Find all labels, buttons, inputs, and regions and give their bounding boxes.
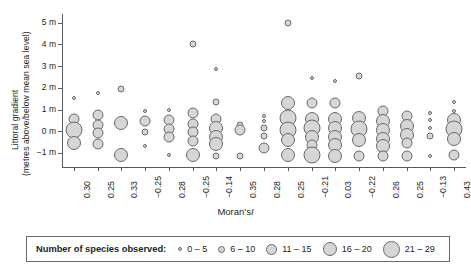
data-bubble — [303, 147, 320, 164]
y-axis-tick-label: 2 m — [22, 83, 56, 92]
size-legend-item: 21 – 29 — [383, 241, 435, 258]
x-axis-tick-mark — [98, 167, 99, 171]
data-bubble — [167, 153, 171, 157]
data-bubble — [92, 128, 103, 139]
data-bubble — [333, 79, 337, 83]
y-axis-tick-label: 3 m — [22, 62, 56, 71]
data-bubble — [143, 109, 147, 113]
data-bubble — [401, 138, 412, 149]
data-bubble — [284, 19, 291, 26]
data-bubble — [213, 98, 220, 105]
data-bubble — [118, 85, 125, 92]
size-legend-item: 16 – 20 — [323, 242, 372, 256]
data-bubble — [259, 142, 270, 153]
size-legend: Number of species observed: 0 – 56 – 101… — [26, 236, 450, 262]
x-axis-tick-label: 0.43 — [463, 181, 471, 198]
y-axis-tick-label: 1 m — [22, 105, 56, 114]
data-bubble — [452, 100, 456, 104]
x-axis-title: Moran'sI — [0, 206, 471, 217]
x-axis-tick-mark — [430, 167, 431, 171]
data-bubble — [310, 76, 314, 80]
data-bubble — [189, 41, 196, 48]
data-bubble — [427, 132, 434, 139]
x-axis-tick-mark — [264, 167, 265, 171]
data-bubble — [352, 133, 366, 147]
data-bubble — [67, 136, 81, 150]
size-legend-item: 6 – 10 — [218, 244, 255, 254]
y-axis-tick-label: 5 m — [22, 18, 56, 27]
data-bubble — [187, 136, 198, 147]
data-bubble — [92, 139, 103, 150]
x-axis-tick-label: −0.21 — [320, 176, 329, 198]
data-bubble — [235, 125, 246, 136]
x-axis-tick-label: 0.28 — [177, 181, 186, 198]
data-bubble — [114, 116, 128, 130]
data-bubble — [281, 96, 295, 110]
data-bubble — [306, 98, 317, 109]
data-bubble — [377, 151, 388, 162]
x-axis-tick-label: −0.13 — [439, 176, 448, 198]
data-bubble — [213, 153, 220, 160]
x-axis-tick-mark — [121, 167, 122, 171]
data-bubble — [401, 151, 412, 162]
x-axis-tick-label: 0.30 — [82, 181, 91, 198]
size-legend-label: 21 – 29 — [405, 244, 435, 254]
data-bubble — [281, 148, 295, 162]
data-bubble — [140, 116, 151, 127]
x-axis-tick-mark — [216, 167, 217, 171]
data-bubble — [262, 114, 266, 118]
size-legend-item: 0 – 5 — [178, 244, 207, 254]
x-axis-tick-mark — [288, 167, 289, 171]
x-axis-tick-label: 0.25 — [296, 181, 305, 198]
x-axis-tick-label: 0.25 — [415, 181, 424, 198]
size-legend-label: 16 – 20 — [342, 244, 372, 254]
size-legend-bubble — [323, 242, 337, 256]
x-axis-tick-label: 0.28 — [273, 181, 282, 198]
x-axis-title-italic: I — [251, 206, 254, 217]
size-legend-title: Number of species observed: — [36, 244, 166, 254]
data-bubble — [354, 151, 365, 162]
data-bubble — [428, 126, 432, 130]
data-bubble — [452, 109, 456, 113]
x-axis-tick-mark — [74, 167, 75, 171]
x-axis-tick-label: 0.03 — [344, 181, 353, 198]
x-axis-tick-mark — [383, 167, 384, 171]
x-axis-tick-mark — [193, 167, 194, 171]
x-axis-tick-label: 0.35 — [249, 181, 258, 198]
data-bubble — [96, 91, 100, 95]
size-legend-label: 11 – 15 — [282, 244, 311, 254]
x-axis-tick-label: 0.33 — [130, 181, 139, 198]
data-bubble — [209, 137, 223, 151]
data-bubble — [72, 96, 76, 100]
x-axis-tick-label: 0.26 — [391, 181, 400, 198]
data-bubble — [187, 107, 198, 118]
data-bubble — [447, 132, 461, 146]
data-bubble — [356, 72, 363, 79]
y-axis-tick-label: −1 m — [22, 148, 56, 157]
data-bubble — [167, 108, 171, 112]
x-axis-tick-mark — [454, 167, 455, 171]
y-axis-title: Littoral gradient (metres above/below me… — [0, 0, 34, 200]
data-bubble — [449, 150, 460, 161]
x-axis-tick-label: −0.14 — [225, 176, 234, 198]
size-legend-label: 0 – 5 — [187, 244, 207, 254]
x-axis-tick-label: 0.25 — [106, 181, 115, 198]
x-axis-tick-mark — [359, 167, 360, 171]
size-legend-label: 6 – 10 — [230, 244, 255, 254]
x-axis-tick-mark — [407, 167, 408, 171]
data-bubble — [330, 98, 341, 109]
y-axis-tick-label: 0 m — [22, 127, 56, 136]
x-axis-tick-mark — [312, 167, 313, 171]
size-legend-item: 11 – 15 — [266, 244, 311, 255]
x-axis-title-text: Moran's — [217, 206, 251, 217]
data-bubble — [261, 132, 268, 139]
data-bubble — [214, 67, 218, 71]
size-legend-items: 0 – 56 – 1011 – 1516 – 2021 – 29 — [178, 241, 446, 258]
data-bubble — [186, 148, 200, 162]
x-axis-tick-label: −0.25 — [201, 176, 210, 198]
size-legend-bubble — [218, 246, 225, 253]
data-bubble — [142, 129, 149, 136]
x-axis-tick-mark — [169, 167, 170, 171]
data-bubble — [163, 131, 174, 142]
data-bubble — [428, 154, 432, 158]
